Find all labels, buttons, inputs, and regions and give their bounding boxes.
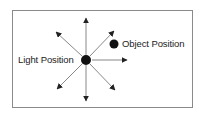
arrow-up-left bbox=[56, 32, 82, 56]
light-position-label: Light Position bbox=[18, 54, 74, 65]
object-position-label: Object Position bbox=[122, 38, 184, 49]
arrow-down-left bbox=[57, 64, 82, 89]
arrow-down-right bbox=[90, 64, 115, 90]
object-position-dot bbox=[110, 40, 119, 49]
light-position-dot bbox=[81, 55, 91, 65]
